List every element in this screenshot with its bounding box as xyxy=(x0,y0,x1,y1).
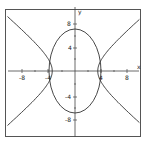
x-axis-label: x xyxy=(137,63,141,70)
y-tick-label: -8 xyxy=(65,116,71,123)
x-tick-label: 8 xyxy=(125,74,129,81)
y-tick-label: -4 xyxy=(65,93,71,100)
chart: -8 -4 4 8 8 4 -4 -8 x y xyxy=(0,0,147,143)
y-axis-label: y xyxy=(78,8,82,16)
x-tick-label: -8 xyxy=(19,74,25,81)
y-tick-label: 8 xyxy=(67,20,71,27)
plot-frame xyxy=(6,10,141,137)
y-tick-label: 4 xyxy=(68,44,72,51)
